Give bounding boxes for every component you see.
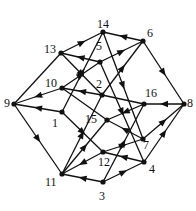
node-label-3: 3 <box>99 190 105 202</box>
node-11 <box>59 171 64 176</box>
node-label-14: 14 <box>97 18 109 30</box>
node-label-9: 9 <box>4 97 10 109</box>
directed-graph <box>0 0 196 211</box>
node-13 <box>58 50 63 55</box>
node-5 <box>97 59 102 64</box>
node-label-4: 4 <box>149 163 155 175</box>
node-label-10: 10 <box>45 77 57 89</box>
arrowhead-icon <box>117 47 127 56</box>
node-label-12: 12 <box>98 156 110 168</box>
edge-16-2 <box>102 95 144 104</box>
node-1 <box>59 109 64 114</box>
node-label-16: 16 <box>145 87 157 99</box>
arrowhead-icon <box>119 153 128 161</box>
node-10 <box>59 85 64 90</box>
arrowhead-icon <box>118 33 127 41</box>
node-6 <box>140 38 145 43</box>
arrowhead-icon <box>119 167 129 176</box>
arrowhead-icon <box>76 53 85 61</box>
arrowhead-icon <box>77 38 87 47</box>
node-4 <box>141 159 146 164</box>
node-label-5: 5 <box>96 40 102 52</box>
node-label-1: 1 <box>52 117 58 129</box>
node-label-11: 11 <box>45 176 57 188</box>
arrowhead-icon <box>77 158 87 167</box>
node-label-6: 6 <box>147 27 153 39</box>
node-3 <box>100 179 105 184</box>
arrowhead-icon <box>33 92 43 101</box>
node-label-7: 7 <box>143 139 149 151</box>
node-label-2: 2 <box>96 78 102 90</box>
node-12 <box>100 149 105 154</box>
arrowhead-icon <box>160 101 168 107</box>
node-16 <box>141 101 146 106</box>
node-label-13: 13 <box>44 43 56 55</box>
node-9 <box>11 101 16 106</box>
node-15 <box>104 117 109 122</box>
arrowhead-icon <box>159 128 169 138</box>
node-label-15: 15 <box>85 113 97 125</box>
arrowhead-icon <box>159 67 169 77</box>
node-label-8: 8 <box>187 97 193 109</box>
arrowhead-icon <box>119 81 128 91</box>
node-8 <box>181 101 186 106</box>
node-2 <box>99 92 104 97</box>
arrowhead-icon <box>33 134 43 144</box>
